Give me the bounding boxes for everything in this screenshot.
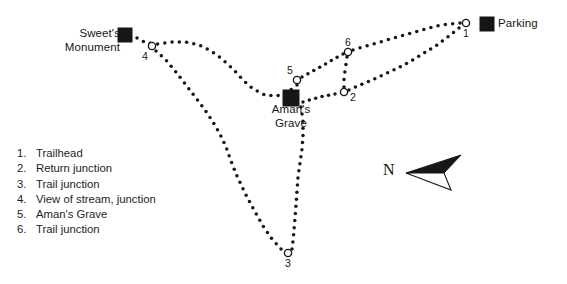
trail-dot <box>429 47 433 51</box>
junction-3 <box>284 249 291 256</box>
trail-dot <box>255 212 259 216</box>
legend-item-label: Trail junction <box>36 222 232 237</box>
trail-dot <box>244 81 248 85</box>
trail-dot <box>235 174 239 178</box>
trail-dot <box>415 30 419 34</box>
trail-dot <box>435 43 439 47</box>
trail-dot <box>297 169 301 173</box>
trail-dot <box>301 141 305 145</box>
trail-dot <box>266 231 270 235</box>
trail-dot <box>295 190 299 194</box>
trail-dot <box>394 36 398 40</box>
legend-item-label: View of stream, junction <box>36 192 232 207</box>
trail-dot <box>401 34 405 38</box>
legend-item-1: 1.Trailhead <box>17 146 232 161</box>
junction-5 <box>293 76 300 83</box>
trail-dot <box>223 60 227 64</box>
trail-dot <box>458 21 462 25</box>
trail-dot <box>298 162 302 166</box>
trail-dot <box>255 89 259 93</box>
trail-dot <box>372 42 376 46</box>
trail-dot <box>294 212 298 216</box>
trail-dot <box>270 237 274 241</box>
trail-dot <box>187 87 191 91</box>
trail-dot <box>196 98 200 102</box>
map-legend: 1.Trailhead2.Return junction3.Trail junc… <box>17 146 232 238</box>
trail-dot <box>330 59 334 63</box>
trail-dot <box>233 167 237 171</box>
trail-dot <box>229 65 233 69</box>
trail-dot <box>238 181 242 185</box>
trail-dot <box>358 46 362 50</box>
parking-square <box>480 17 495 32</box>
junction-number-3: 3 <box>285 258 291 269</box>
trail-dot <box>343 70 347 74</box>
compass-north-label: N <box>383 161 395 179</box>
trail-dot <box>429 26 433 30</box>
trail-dot <box>205 47 209 51</box>
trail-dot <box>279 247 283 251</box>
trail-dot <box>160 54 164 58</box>
trail-dot <box>335 56 339 60</box>
junction-1 <box>462 19 469 26</box>
trail-dot <box>262 225 266 229</box>
legend-item-label: Trailhead <box>36 146 232 161</box>
legend-item-3: 3.Trail junction <box>17 177 232 192</box>
trail-dot <box>163 41 167 45</box>
compass-arrow-lower-half <box>406 173 451 190</box>
legend-item-number: 1. <box>17 146 36 161</box>
trail-dot <box>199 44 203 48</box>
compass-rose: N <box>383 152 467 194</box>
trail-dot <box>446 35 450 39</box>
trail-dot <box>156 42 160 46</box>
trail-monument-to-grave-north <box>135 36 299 97</box>
junction-2 <box>340 88 347 95</box>
trail-dot <box>292 233 296 237</box>
label-parking: Parking <box>498 17 538 31</box>
trail-dot <box>373 77 377 81</box>
trail-dot <box>185 40 189 44</box>
legend-item-number: 2. <box>17 161 36 176</box>
trail-dot <box>191 93 195 97</box>
trail-dot <box>296 176 300 180</box>
trail-dot <box>392 68 396 72</box>
legend-item-2: 2.Return junction <box>17 161 232 176</box>
trail-dot <box>251 206 255 210</box>
trail-dot <box>274 242 278 246</box>
trail-dot <box>451 22 455 26</box>
trail-map: Sweet's Monument Parking Aman's Grave 1 … <box>0 0 567 284</box>
trail-dot <box>212 51 216 55</box>
trail-dot <box>216 128 220 132</box>
trail-dot <box>300 148 304 152</box>
trail-dot <box>204 110 208 114</box>
trail-dot <box>178 76 182 80</box>
trail-dot <box>318 66 322 70</box>
trail-dot <box>241 187 245 191</box>
trail-dot <box>178 40 182 44</box>
trail-dot <box>312 69 316 73</box>
trail-dot <box>244 193 248 197</box>
trail-dot <box>367 80 371 84</box>
junction-number-5: 5 <box>287 65 293 76</box>
trail-dot <box>354 85 358 89</box>
trail-dot <box>441 39 445 43</box>
trail-dot <box>344 63 348 67</box>
trail-dot <box>379 74 383 78</box>
trail-dot <box>405 62 409 66</box>
trail-junction6-to-junction2 <box>342 55 349 89</box>
compass-arrow-upper-half <box>406 155 461 173</box>
trail-dot <box>239 76 243 80</box>
trail-dot <box>293 219 297 223</box>
label-amans-grave: Aman's Grave <box>255 103 327 130</box>
trail-dot <box>422 28 426 32</box>
trail-dot <box>306 72 310 76</box>
trail-dot <box>333 92 337 96</box>
trail-dot <box>411 58 415 62</box>
trail-dot <box>165 59 169 63</box>
legend-item-4: 4.View of stream, junction <box>17 192 232 207</box>
trail-dot <box>200 104 204 108</box>
trail-dot <box>327 93 331 97</box>
compass-arrow-icon <box>404 152 466 194</box>
junction-4 <box>148 42 155 49</box>
trail-dot <box>342 78 346 82</box>
